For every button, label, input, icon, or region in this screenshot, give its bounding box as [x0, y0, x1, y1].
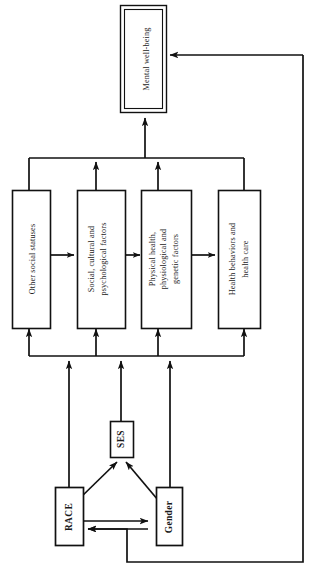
node-gender[interactable]: Gender	[157, 488, 183, 546]
mediator-bus	[29, 158, 244, 190]
node-label-physical-health-line-1: Physical health,	[148, 232, 157, 286]
conceptual-model-diagram: Mental well-being Other social statuses …	[0, 0, 330, 572]
node-ses[interactable]: SES	[111, 422, 134, 458]
node-label-physical-health-line-2: physiological and	[159, 229, 168, 290]
node-other-social-statuses[interactable]: Other social statuses	[13, 191, 51, 329]
node-label-social-cultural-line-2: psychological factors	[99, 223, 108, 296]
node-label-physical-health-line-3: genetic factors	[171, 234, 180, 284]
node-label-social-cultural-line-1: Social, cultural and	[87, 226, 96, 292]
node-label-mental-well-being: Mental well-being	[142, 28, 151, 91]
node-health-behaviors-and-health-care[interactable]: Health behaviors and health care	[219, 191, 261, 329]
node-race[interactable]: RACE	[56, 488, 84, 546]
node-label-other-social-statuses: Other social statuses	[28, 224, 37, 294]
node-label-health-behaviors-line-2: health care	[241, 240, 250, 278]
node-physical-health-physiological-genetic-factors[interactable]: Physical health, physiological and genet…	[142, 191, 192, 329]
edge-race-gender-bidirectional	[84, 521, 148, 529]
node-social-cultural-psychological-factors[interactable]: Social, cultural and psychological facto…	[78, 191, 126, 329]
diagram-canvas: Mental well-being Other social statuses …	[0, 0, 330, 572]
node-mental-well-being[interactable]: Mental well-being	[121, 6, 167, 113]
node-label-gender: Gender	[164, 501, 174, 534]
node-label-race: RACE	[64, 503, 74, 531]
edge-gender-to-ses	[126, 462, 158, 500]
node-label-health-behaviors-line-1: Health behaviors and	[228, 223, 237, 296]
node-label-ses: SES	[116, 430, 126, 448]
